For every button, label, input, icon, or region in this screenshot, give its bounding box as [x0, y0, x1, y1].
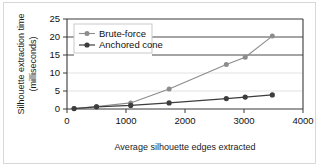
- x-tick-label: 2000: [174, 115, 195, 126]
- y-tick-labels: 0 5 10 15 20 25: [49, 13, 60, 114]
- y-tick-label: 15: [49, 49, 60, 60]
- x-tick-label: 0: [64, 115, 69, 126]
- data-point: [128, 103, 133, 108]
- figure-container: 0 5 10 15 20 25 0 1000 2000 3000 4000 Si…: [0, 0, 319, 167]
- y-axis-label-line1: Silhouette extraction time: [16, 13, 26, 114]
- y-axis-label-line2: (milliseconds): [28, 36, 38, 91]
- y-tick-label: 0: [55, 103, 60, 114]
- data-point: [243, 95, 248, 100]
- legend-label-anchored-cone: Anchored cone: [99, 39, 163, 50]
- y-tick-label: 25: [49, 13, 60, 24]
- y-tick-label: 10: [49, 67, 60, 78]
- line-chart: 0 5 10 15 20 25 0 1000 2000 3000 4000 Si…: [0, 0, 319, 167]
- data-point: [224, 96, 229, 101]
- data-point: [270, 92, 275, 97]
- x-tick-label: 3000: [233, 115, 254, 126]
- chart-legend: Brute-force Anchored cone: [74, 24, 163, 53]
- legend-swatch-marker-anchored-cone: [84, 42, 89, 47]
- data-point: [167, 86, 172, 91]
- x-axis-label: Average silhouette edges extracted: [115, 142, 256, 152]
- x-tick-label: 1000: [115, 115, 136, 126]
- y-tick-label: 20: [49, 31, 60, 42]
- y-tick-label: 5: [55, 85, 60, 96]
- data-point: [270, 34, 275, 39]
- data-point: [72, 106, 77, 111]
- legend-label-brute-force: Brute-force: [99, 28, 146, 39]
- data-point: [94, 104, 99, 109]
- x-tick-labels: 0 1000 2000 3000 4000: [64, 115, 313, 126]
- x-axis-ticks: [67, 109, 303, 113]
- data-point: [167, 100, 172, 105]
- data-point: [243, 55, 248, 60]
- x-tick-label: 4000: [292, 115, 313, 126]
- y-axis-label: Silhouette extraction time (milliseconds…: [16, 13, 38, 114]
- y-axis-ticks: [63, 19, 67, 109]
- data-point: [224, 62, 229, 67]
- legend-swatch-marker-brute-force: [85, 31, 90, 36]
